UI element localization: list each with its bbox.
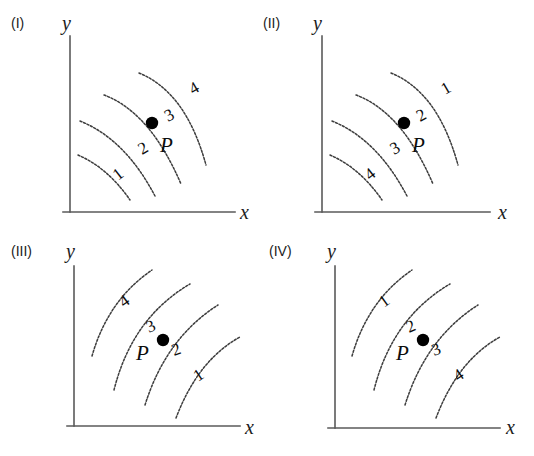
contour-curve-III-1	[176, 337, 240, 418]
y-axis-label-IV: y	[325, 240, 336, 263]
panel-label-III: (III)	[11, 243, 32, 259]
x-axis-label-IV: x	[505, 416, 515, 438]
panel-label-IV: (IV)	[269, 243, 292, 259]
contour-label-II-3: 3	[387, 138, 404, 159]
point-dot-II	[398, 117, 410, 129]
contour-label-I-3: 3	[161, 105, 177, 126]
panel-label-II: (II)	[263, 15, 280, 31]
point-label-I: P	[159, 133, 173, 157]
contour-label-IV-4: 4	[450, 365, 468, 386]
contour-label-II-1: 1	[438, 78, 455, 99]
contour-label-II-4: 4	[361, 164, 380, 185]
contour-curve-IV-4	[436, 337, 500, 418]
contour-label-III-3: 3	[143, 316, 158, 337]
point-dot-III	[157, 334, 169, 346]
panel-III: (III) y x P 4 3 2 1	[0, 228, 267, 456]
contour-label-I-1: 1	[109, 164, 127, 184]
contour-label-IV-2: 2	[403, 316, 418, 337]
panel-I: (I) y x P 1 2 3 4	[0, 0, 267, 228]
contour-label-IV-1: 1	[375, 291, 393, 311]
contour-label-III-2: 2	[169, 339, 183, 360]
point-label-II: P	[411, 133, 425, 157]
contour-label-II-2: 2	[413, 105, 429, 126]
point-label-III: P	[135, 341, 149, 365]
y-axis-label-III: y	[64, 240, 75, 263]
x-axis-label-III: x	[244, 416, 254, 438]
contour-label-IV-3: 3	[429, 339, 443, 360]
panel-label-I: (I)	[11, 15, 24, 31]
panel-II: (II) y x P 4 3 2 1	[252, 0, 534, 228]
x-axis-label-II: x	[497, 201, 507, 223]
panel-IV: (IV) y x P 1 2 3 4	[257, 228, 534, 456]
point-dot-IV	[417, 334, 429, 346]
y-axis-label-II: y	[311, 12, 322, 35]
x-axis-label-I: x	[239, 201, 249, 223]
point-dot-I	[146, 117, 158, 129]
contour-map-figure: (I) y x P 1 2 3 4 (II) y x	[0, 0, 534, 456]
contour-label-I-2: 2	[135, 138, 152, 159]
point-label-IV: P	[395, 341, 409, 365]
y-axis-label-I: y	[60, 12, 71, 35]
contour-label-I-4: 4	[186, 78, 203, 99]
